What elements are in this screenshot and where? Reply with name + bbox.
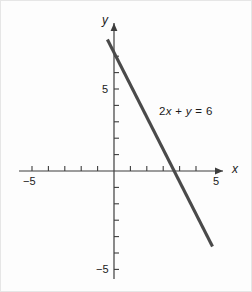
equation-coefficient: 2 xyxy=(159,105,166,117)
y-tick-label-5: 5 xyxy=(102,84,108,95)
y-tick-label-neg5: −5 xyxy=(96,264,109,275)
y-axis-label: y xyxy=(102,15,108,26)
equation-annotation: 2x + y = 6 xyxy=(159,106,213,117)
graph-figure: y x −5 5 5 −5 2x + y = 6 xyxy=(0,0,252,292)
x-axis-arrowhead xyxy=(215,168,223,175)
x-tick-label-neg5: −5 xyxy=(23,176,36,187)
line-2x-plus-y-equals-6 xyxy=(107,40,212,247)
equation-plus-sign: + xyxy=(175,105,182,117)
y-axis-ticks xyxy=(114,56,119,269)
y-axis-arrowhead xyxy=(111,23,118,31)
equation-variable-y: y xyxy=(186,105,192,117)
x-axis xyxy=(19,168,223,175)
equation-constant: 6 xyxy=(206,105,213,117)
y-axis xyxy=(111,23,118,279)
coordinate-plane-svg xyxy=(1,1,252,292)
equation-variable-x: x xyxy=(166,105,172,117)
equation-equals-sign: = xyxy=(195,105,202,117)
x-tick-label-5: 5 xyxy=(213,176,219,187)
x-axis-label: x xyxy=(232,164,238,175)
